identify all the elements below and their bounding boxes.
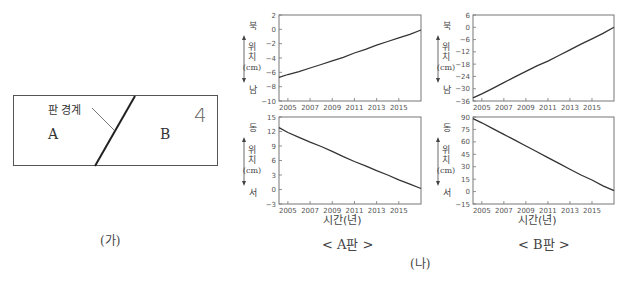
xlabel-a: 시간(년)	[323, 211, 362, 227]
svg-text:60: 60	[461, 138, 470, 146]
svg-text:−24: −24	[455, 73, 470, 81]
svg-text:−18: −18	[455, 61, 470, 69]
svg-text:2011: 2011	[346, 104, 364, 112]
data-line-B-east-west	[473, 119, 614, 191]
svg-text:서: 서	[249, 188, 257, 198]
svg-text:30: 30	[461, 163, 470, 171]
svg-text:(cm): (cm)	[437, 63, 455, 72]
svg-text:북: 북	[443, 21, 451, 31]
svg-text:치: 치	[248, 51, 256, 62]
svg-text:−6: −6	[266, 69, 277, 77]
svg-text:2007: 2007	[495, 104, 513, 112]
plot-frame-A-east-west	[279, 117, 421, 204]
svg-text:2005: 2005	[279, 207, 297, 215]
svg-text:동: 동	[443, 123, 451, 133]
svg-text:6: 6	[272, 157, 277, 165]
svg-text:0: 0	[466, 24, 470, 32]
svg-text:2005: 2005	[473, 207, 491, 215]
svg-text:치: 치	[442, 154, 450, 165]
svg-text:2007: 2007	[495, 207, 513, 215]
svg-text:2015: 2015	[390, 104, 408, 112]
svg-text:3: 3	[272, 172, 276, 180]
svg-text:−2: −2	[266, 40, 276, 48]
svg-text:위: 위	[442, 42, 450, 52]
svg-text:6: 6	[466, 12, 471, 20]
xlabel-b: 시간(년)	[518, 211, 557, 227]
svg-text:2015: 2015	[583, 104, 601, 112]
svg-text:0: 0	[466, 188, 470, 196]
svg-text:−8: −8	[266, 83, 276, 91]
svg-text:2013: 2013	[368, 207, 386, 215]
svg-text:12: 12	[267, 128, 276, 136]
svg-text:남: 남	[249, 85, 257, 95]
svg-text:(cm): (cm)	[243, 63, 261, 72]
svg-text:−36: −36	[455, 98, 470, 106]
svg-text:2005: 2005	[279, 104, 297, 112]
svg-text:−10: −10	[261, 98, 276, 106]
svg-text:2: 2	[272, 12, 276, 20]
svg-text:(cm): (cm)	[437, 166, 455, 175]
svg-text:2013: 2013	[368, 104, 386, 112]
svg-text:북: 북	[249, 21, 257, 31]
svg-text:75: 75	[461, 126, 470, 134]
svg-text:−30: −30	[455, 85, 470, 93]
svg-text:치: 치	[442, 51, 450, 62]
svg-text:2007: 2007	[301, 104, 319, 112]
data-line-A-north-south	[279, 30, 421, 77]
svg-text:2011: 2011	[539, 104, 557, 112]
svg-text:−4: −4	[266, 55, 277, 63]
svg-text:2015: 2015	[390, 207, 408, 215]
plot-frame-B-east-west	[473, 117, 614, 204]
svg-text:15: 15	[461, 176, 470, 184]
svg-text:2005: 2005	[473, 104, 491, 112]
panel-a-caption: < A판 >	[322, 234, 373, 253]
svg-text:45: 45	[461, 151, 470, 159]
plot-frame-A-north-south	[279, 15, 421, 101]
figure-na-caption: (나)	[410, 254, 430, 271]
svg-text:2007: 2007	[301, 207, 319, 215]
svg-text:위: 위	[248, 145, 256, 155]
svg-text:9: 9	[272, 143, 276, 151]
svg-text:치: 치	[248, 154, 256, 165]
svg-text:남: 남	[443, 85, 451, 95]
svg-text:−3: −3	[266, 201, 276, 209]
svg-text:−6: −6	[460, 36, 471, 44]
svg-text:−12: −12	[455, 48, 470, 56]
svg-text:2013: 2013	[561, 207, 579, 215]
svg-text:−15: −15	[455, 201, 470, 209]
svg-text:0: 0	[272, 26, 276, 34]
svg-text:위: 위	[442, 145, 450, 155]
svg-text:서: 서	[443, 188, 451, 198]
svg-text:2009: 2009	[517, 104, 535, 112]
svg-text:동: 동	[249, 123, 257, 133]
svg-text:2013: 2013	[561, 104, 579, 112]
svg-text:(cm): (cm)	[243, 166, 261, 175]
svg-text:90: 90	[461, 114, 470, 122]
svg-text:위: 위	[248, 42, 256, 52]
svg-text:2009: 2009	[323, 104, 341, 112]
svg-text:15: 15	[267, 114, 276, 122]
panel-b-caption: < B판 >	[518, 234, 570, 253]
data-line-B-north-south	[473, 27, 614, 98]
svg-text:0: 0	[272, 186, 276, 194]
data-line-A-east-west	[279, 128, 421, 189]
svg-text:2015: 2015	[583, 207, 601, 215]
